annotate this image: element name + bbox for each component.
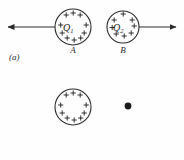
sphere-a-charge-symbol: Q1 — [63, 22, 73, 33]
sphere-b-charge-symbol: Q2 — [113, 22, 123, 33]
panel-a: (a) Q1 Q2 A B — [0, 0, 184, 80]
sphere-a-label: A — [63, 45, 83, 55]
sphere-a-charge-subscript: 1 — [70, 27, 73, 34]
panel-b: (b) Q1 A q P — [0, 80, 184, 160]
sphere-b-label: B — [113, 45, 133, 55]
sphere-b-charge-subscript: 2 — [120, 27, 123, 34]
physics-figure-charged-spheres: (a) Q1 Q2 A B (b) Q1 A q P — [0, 0, 184, 160]
panel-a-label: (a) — [9, 52, 20, 62]
